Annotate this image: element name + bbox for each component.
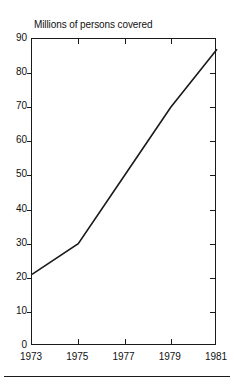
y-axis-tick-mark — [27, 278, 32, 279]
footer-divider — [4, 376, 230, 377]
chart-figure: Millions of persons covered 010203040506… — [0, 0, 234, 388]
y-axis-tick-label: 50 — [3, 169, 27, 179]
y-axis-tick-mark — [27, 312, 32, 313]
y-axis-tick-label: 40 — [3, 204, 27, 214]
y-axis-tick-labels: 0102030405060708090 — [0, 0, 27, 388]
y-axis-tick-mark-right — [210, 278, 215, 279]
y-axis-tick-mark — [27, 107, 32, 108]
x-axis-tick-label: 1973 — [11, 352, 51, 362]
y-axis-tick-mark-right — [210, 244, 215, 245]
y-axis-tick-mark-right — [210, 73, 215, 74]
x-axis-tick-label: 1979 — [150, 352, 190, 362]
y-axis-tick-mark-right — [210, 141, 215, 142]
y-axis-tick-mark — [27, 175, 32, 176]
y-axis-tick-mark-right — [210, 312, 215, 313]
y-axis-tick-label: 20 — [3, 272, 27, 282]
y-axis-tick-label: 60 — [3, 135, 27, 145]
y-axis-tick-label: 70 — [3, 101, 27, 111]
y-axis-tick-mark — [27, 73, 32, 74]
y-axis-tick-label: 90 — [3, 33, 27, 43]
y-axis-tick-mark-right — [210, 210, 215, 211]
x-axis-tick-label: 1981 — [196, 352, 234, 362]
x-axis-tick-mark-top — [78, 39, 79, 44]
chart-title: Millions of persons covered — [34, 19, 152, 31]
x-axis-tick-mark-top — [171, 39, 172, 44]
x-axis-tick-label: 1975 — [57, 352, 97, 362]
x-axis-tick-mark — [78, 339, 79, 344]
x-axis-tick-mark — [125, 339, 126, 344]
y-axis-tick-label: 10 — [3, 306, 27, 316]
x-axis-tick-labels: 19731975197719791981 — [0, 352, 234, 366]
plot-area — [31, 38, 216, 345]
series-line-chart — [32, 39, 217, 346]
y-axis-tick-label: 80 — [3, 67, 27, 77]
y-axis-tick-mark — [27, 244, 32, 245]
series-line-millions-of-persons-covered — [32, 49, 217, 274]
y-axis-tick-label: 30 — [3, 238, 27, 248]
y-axis-tick-label: 0 — [3, 340, 27, 350]
y-axis-tick-mark — [27, 141, 32, 142]
y-axis-tick-mark-right — [210, 107, 215, 108]
x-axis-tick-label: 1977 — [104, 352, 144, 362]
y-axis-tick-mark-right — [210, 175, 215, 176]
x-axis-tick-mark — [171, 339, 172, 344]
y-axis-tick-mark — [27, 210, 32, 211]
x-axis-tick-mark-top — [125, 39, 126, 44]
